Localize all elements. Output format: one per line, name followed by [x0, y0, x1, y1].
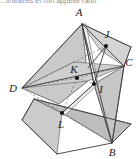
- vertex-label-K: K: [69, 63, 78, 75]
- point-J: [104, 44, 108, 48]
- figure-page: ...linéaires et l'on appelle raun: [0, 0, 140, 159]
- vertex-label-A: A: [75, 6, 83, 18]
- vertex-label-B: B: [109, 146, 116, 158]
- edge-plane-lower-bottom: [57, 143, 112, 154]
- vertex-label-D: D: [8, 82, 17, 94]
- vertex-label-L: L: [57, 118, 64, 130]
- point-I: [92, 82, 96, 86]
- vertex-label-C: C: [125, 56, 133, 68]
- geometry-figure: A B C D I J K L: [0, 0, 140, 159]
- point-K: [75, 76, 79, 80]
- point-L: [60, 111, 64, 115]
